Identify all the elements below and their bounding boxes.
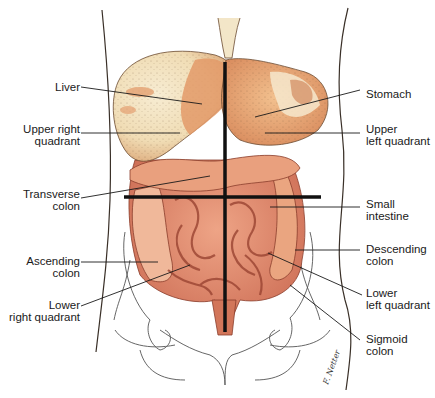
label-upper-right-quadrant: Upper right quadrant — [23, 123, 80, 147]
label-sigmoid-colon: Sigmoid colon — [366, 333, 408, 357]
label-lower-right-quadrant: Lower right quadrant — [9, 299, 80, 323]
label-liver: Liver — [55, 81, 80, 93]
label-transverse-colon: Transverse colon — [23, 188, 80, 212]
liver-shape — [113, 51, 238, 161]
label-upper-left-quadrant: Upper left quadrant — [366, 123, 430, 147]
label-small-intestine: Small intestine — [366, 198, 409, 222]
esophagus-shape — [218, 18, 240, 58]
artist-signature: F. Netter — [321, 348, 343, 387]
label-lower-left-quadrant: Lower left quadrant — [366, 287, 430, 311]
label-ascending-colon: Ascending colon — [26, 255, 80, 279]
label-descending-colon: Descending colon — [366, 243, 427, 267]
label-stomach: Stomach — [366, 88, 411, 100]
abdominal-quadrants-diagram: F. Netter Liver Upper right quadrant Tra… — [0, 0, 435, 398]
